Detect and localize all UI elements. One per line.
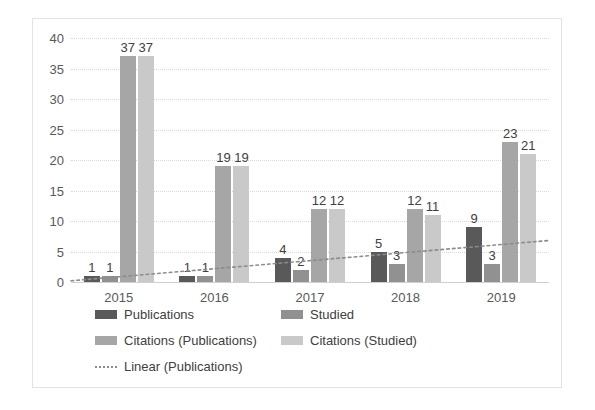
legend-item-citations-studied[interactable]: Citations (Studied) xyxy=(281,333,417,348)
y-axis-tick-label: 25 xyxy=(50,123,64,136)
bar-value-label: 11 xyxy=(426,200,440,213)
bar-wrap: 21 xyxy=(520,38,536,282)
bar-group-2015: 1137372015 xyxy=(71,38,167,282)
bars: 531211 xyxy=(358,38,454,282)
x-axis-tick-label-2019: 2019 xyxy=(453,290,549,305)
bar-wrap: 19 xyxy=(215,38,231,282)
bar-citations-publications-2016[interactable] xyxy=(215,166,231,282)
chart-legend: PublicationsStudiedCitations (Publicatio… xyxy=(71,307,541,385)
bar-wrap: 1 xyxy=(197,38,213,282)
x-axis-tick-label-2017: 2017 xyxy=(262,290,358,305)
bar-wrap: 9 xyxy=(466,38,482,282)
bar-publications-2018[interactable] xyxy=(371,252,387,283)
bar-value-label: 4 xyxy=(279,243,286,256)
plot-area: 0510152025303540 11373720151119192016421… xyxy=(71,38,549,282)
y-axis-tick-label: 0 xyxy=(57,276,64,289)
legend-label: Studied xyxy=(310,307,354,322)
bar-wrap: 3 xyxy=(484,38,500,282)
bar-citations-studied-2019[interactable] xyxy=(520,154,536,282)
bar-group-2019: 9323212019 xyxy=(453,38,549,282)
bar-value-label: 5 xyxy=(375,237,382,250)
legend-color-swatch-icon xyxy=(281,336,303,345)
bars: 421212 xyxy=(262,38,358,282)
bar-value-label: 19 xyxy=(234,151,248,164)
bar-wrap: 11 xyxy=(425,38,441,282)
bar-wrap: 4 xyxy=(275,38,291,282)
bars: 113737 xyxy=(71,38,167,282)
bar-value-label: 2 xyxy=(297,255,304,268)
legend-item-publications[interactable]: Publications xyxy=(71,307,281,322)
bars: 111919 xyxy=(167,38,263,282)
bar-value-label: 12 xyxy=(407,194,421,207)
legend-label: Citations (Publications) xyxy=(124,333,257,348)
bar-value-label: 1 xyxy=(88,261,95,274)
bar-wrap: 12 xyxy=(311,38,327,282)
bar-studied-2018[interactable] xyxy=(389,264,405,282)
x-axis-tick-label-2015: 2015 xyxy=(71,290,167,305)
bar-citations-publications-2017[interactable] xyxy=(311,209,327,282)
bar-value-label: 9 xyxy=(471,212,478,225)
x-axis-tick-label-2016: 2016 xyxy=(167,290,263,305)
x-axis-tick-label-2018: 2018 xyxy=(358,290,454,305)
bar-wrap: 23 xyxy=(502,38,518,282)
bar-wrap: 12 xyxy=(407,38,423,282)
bar-wrap: 19 xyxy=(233,38,249,282)
bar-studied-2015[interactable] xyxy=(102,276,118,282)
bar-value-label: 37 xyxy=(139,41,153,54)
bar-wrap: 2 xyxy=(293,38,309,282)
chart-frame: 0510152025303540 11373720151119192016421… xyxy=(32,18,562,388)
bar-publications-2019[interactable] xyxy=(466,227,482,282)
bar-wrap: 5 xyxy=(371,38,387,282)
bar-studied-2016[interactable] xyxy=(197,276,213,282)
bar-studied-2017[interactable] xyxy=(293,270,309,282)
bar-value-label: 3 xyxy=(393,249,400,262)
bar-citations-publications-2018[interactable] xyxy=(407,209,423,282)
bar-value-label: 1 xyxy=(202,261,209,274)
bar-groups: 1137372015111919201642121220175312112018… xyxy=(71,38,549,282)
bar-group-2017: 4212122017 xyxy=(262,38,358,282)
bar-citations-studied-2016[interactable] xyxy=(233,166,249,282)
bar-wrap: 37 xyxy=(138,38,154,282)
y-axis-tick-label: 10 xyxy=(50,215,64,228)
bar-citations-studied-2018[interactable] xyxy=(425,215,441,282)
bar-studied-2019[interactable] xyxy=(484,264,500,282)
bar-value-label: 12 xyxy=(330,194,344,207)
legend-row: Citations (Publications)Citations (Studi… xyxy=(71,333,541,348)
legend-color-swatch-icon xyxy=(95,336,117,345)
bar-publications-2017[interactable] xyxy=(275,258,291,282)
bar-value-label: 3 xyxy=(489,249,496,262)
legend-item-linear-publications[interactable]: Linear (Publications) xyxy=(71,359,281,374)
bar-value-label: 19 xyxy=(216,151,230,164)
bar-wrap: 1 xyxy=(84,38,100,282)
bar-value-label: 12 xyxy=(312,194,326,207)
bar-value-label: 23 xyxy=(503,127,517,140)
y-axis-tick-label: 15 xyxy=(50,184,64,197)
bar-publications-2016[interactable] xyxy=(179,276,195,282)
bar-citations-publications-2019[interactable] xyxy=(502,142,518,282)
legend-label: Citations (Studied) xyxy=(310,333,417,348)
bar-citations-publications-2015[interactable] xyxy=(120,56,136,282)
legend-label: Linear (Publications) xyxy=(124,359,243,374)
bar-value-label: 1 xyxy=(184,261,191,274)
y-axis-tick-label: 30 xyxy=(50,93,64,106)
bar-publications-2015[interactable] xyxy=(84,276,100,282)
y-axis-tick-label: 5 xyxy=(57,245,64,258)
bars: 932321 xyxy=(453,38,549,282)
legend-color-swatch-icon xyxy=(95,310,117,319)
bar-wrap: 1 xyxy=(179,38,195,282)
legend-row: PublicationsStudied xyxy=(71,307,541,322)
legend-item-studied[interactable]: Studied xyxy=(281,307,354,322)
legend-item-citations-publications[interactable]: Citations (Publications) xyxy=(71,333,281,348)
bar-wrap: 1 xyxy=(102,38,118,282)
bar-citations-studied-2017[interactable] xyxy=(329,209,345,282)
legend-line-swatch-icon xyxy=(95,366,117,368)
gridline xyxy=(71,282,549,283)
bar-value-label: 1 xyxy=(106,261,113,274)
bar-value-label: 21 xyxy=(521,139,535,152)
bar-value-label: 37 xyxy=(121,41,135,54)
y-axis-tick-label: 20 xyxy=(50,154,64,167)
bar-group-2018: 5312112018 xyxy=(358,38,454,282)
legend-label: Publications xyxy=(124,307,194,322)
bar-wrap: 3 xyxy=(389,38,405,282)
bar-citations-studied-2015[interactable] xyxy=(138,56,154,282)
